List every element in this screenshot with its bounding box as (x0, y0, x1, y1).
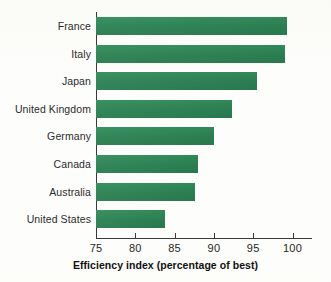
bar-row: Canada (0, 153, 331, 175)
bar-france (96, 17, 287, 35)
x-axis-tick (253, 233, 254, 239)
bar-category-label: Italy (0, 43, 91, 65)
bar-row: Italy (0, 43, 331, 65)
bar-japan (96, 72, 257, 90)
x-axis-tick (293, 233, 294, 239)
bar-category-label: United Kingdom (0, 98, 91, 120)
x-axis-tick-label: 90 (199, 242, 229, 254)
x-axis-tick-label: 85 (160, 242, 190, 254)
bar-canada (96, 155, 198, 173)
x-axis-tick-label: 100 (278, 242, 308, 254)
bar-row: United Kingdom (0, 98, 331, 120)
bar-category-label: Germany (0, 125, 91, 147)
x-axis-tick-label: 75 (81, 242, 111, 254)
bar-row: France (0, 15, 331, 37)
x-axis-tick (96, 233, 97, 239)
bar-row: Australia (0, 181, 331, 203)
bar-italy (96, 45, 285, 63)
x-axis-tick (175, 233, 176, 239)
x-axis-tick-label: 80 (120, 242, 150, 254)
bar-australia (96, 183, 195, 201)
bar-category-label: United States (0, 208, 91, 230)
x-axis-line (96, 238, 312, 239)
bar-category-label: France (0, 15, 91, 37)
bar-category-label: Japan (0, 70, 91, 92)
x-axis-tick (135, 233, 136, 239)
plot-area: FranceItalyJapanUnited KingdomGermanyCan… (0, 0, 331, 282)
bar-category-label: Australia (0, 181, 91, 203)
x-axis-title: Efficiency index (percentage of best) (0, 259, 331, 271)
bar-germany (96, 127, 214, 145)
bar-category-label: Canada (0, 153, 91, 175)
bar-united-kingdom (96, 100, 232, 118)
bar-chart-figure: FranceItalyJapanUnited KingdomGermanyCan… (0, 0, 331, 282)
bar-row: Japan (0, 70, 331, 92)
bar-row: Germany (0, 125, 331, 147)
bar-united-states (96, 210, 165, 228)
x-axis-tick-label: 95 (238, 242, 268, 254)
x-axis-tick (214, 233, 215, 239)
bar-row: United States (0, 208, 331, 230)
